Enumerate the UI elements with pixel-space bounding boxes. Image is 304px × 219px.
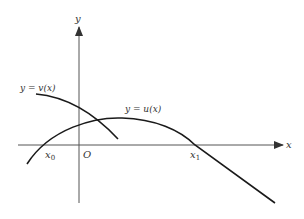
function-diagram: y x O y = v(x) y = u(x) x0 x1: [0, 0, 304, 219]
x1-label: x1: [190, 149, 200, 162]
x0-label: x0: [45, 149, 55, 162]
origin-label: O: [83, 149, 91, 160]
y-axis-label: y: [74, 13, 81, 24]
curve-u-label: y = u(x): [124, 104, 162, 114]
x-axis-label: x: [286, 139, 292, 150]
curve-u: [27, 118, 275, 203]
curve-v-label: y = v(x): [19, 83, 56, 93]
curve-v: [36, 94, 118, 139]
